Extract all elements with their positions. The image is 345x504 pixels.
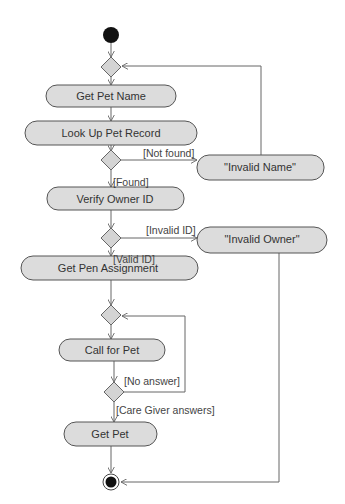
activity-invalid-owner: "Invalid Owner" — [197, 227, 327, 253]
guard-no-answer: [No answer] — [124, 375, 180, 387]
activity-get-pet: Get Pet — [64, 422, 157, 446]
svg-text:"Invalid Owner": "Invalid Owner" — [224, 233, 299, 245]
decision-node-2 — [101, 150, 121, 170]
svg-text:Call for Pet: Call for Pet — [85, 344, 139, 356]
decision-node-3 — [101, 228, 121, 248]
activity-get-pet-name: Get Pet Name — [46, 85, 176, 107]
guard-found: [Found] — [113, 176, 149, 188]
svg-text:Get Pet Name: Get Pet Name — [76, 90, 146, 102]
activity-invalid-name: "Invalid Name" — [197, 155, 324, 180]
decision-node-5 — [104, 382, 124, 402]
activity-look-up-pet-record: Look Up Pet Record — [25, 121, 197, 145]
activity-call-for-pet: Call for Pet — [59, 339, 165, 361]
guard-valid-id: [Valid ID] — [113, 253, 155, 265]
decision-node-4 — [101, 305, 121, 325]
svg-text:"Invalid Name": "Invalid Name" — [224, 161, 296, 173]
initial-node — [103, 27, 119, 43]
guard-invalid-id: [Invalid ID] — [146, 224, 196, 236]
guard-not-found: [Not found] — [143, 147, 194, 159]
guard-care-giver-answers: [Care Giver answers] — [116, 404, 215, 416]
svg-text:Verify Owner ID: Verify Owner ID — [76, 193, 153, 205]
decision-node-1 — [101, 57, 121, 77]
activity-get-pen-assignment: Get Pen Assignment — [21, 256, 198, 280]
final-node — [103, 474, 119, 490]
activity-diagram: Get Pet Name Look Up Pet Record "Invalid… — [0, 0, 345, 504]
svg-text:Look Up Pet Record: Look Up Pet Record — [61, 127, 160, 139]
svg-text:Get Pet: Get Pet — [91, 428, 128, 440]
activity-verify-owner-id: Verify Owner ID — [47, 187, 184, 210]
